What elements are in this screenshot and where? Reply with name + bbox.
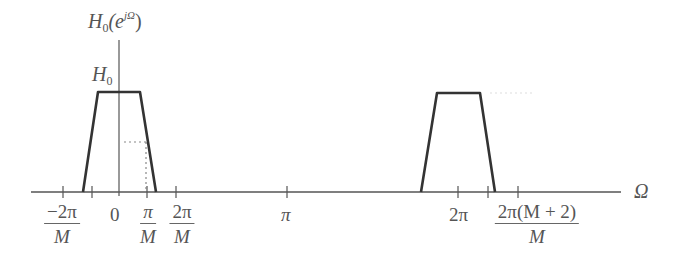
tick-label-pi-over-M: π M bbox=[140, 202, 156, 246]
frac-numerator: π bbox=[140, 202, 156, 223]
y-label-sup: jΩ bbox=[124, 9, 135, 21]
y-label-base: H bbox=[88, 10, 102, 32]
frac-denominator: M bbox=[174, 224, 190, 246]
tick-label-2pi-M-plus-2-over-M: 2π(M + 2) M bbox=[495, 202, 579, 246]
tick-label-pi: π bbox=[281, 205, 291, 224]
frac-denominator: M bbox=[54, 224, 70, 246]
y-label-open: (e bbox=[108, 10, 124, 32]
y-axis-label: H0(ejΩ) bbox=[88, 10, 142, 34]
frac-numerator: 2π bbox=[169, 202, 194, 223]
passband-image-2pi bbox=[421, 93, 495, 192]
tick-label-2pi-over-M: 2π M bbox=[169, 202, 194, 246]
frac-numerator: −2π bbox=[44, 202, 80, 223]
frac-denominator: M bbox=[529, 224, 545, 246]
x-axis-label: Ω bbox=[634, 181, 648, 201]
y-label-close: ) bbox=[135, 10, 142, 32]
frac-denominator: M bbox=[140, 224, 156, 246]
dotted-guides bbox=[124, 93, 532, 190]
tick-label-2pi: 2π bbox=[449, 205, 468, 224]
tick-label-zero: 0 bbox=[110, 205, 120, 224]
level-label-sub: 0 bbox=[106, 74, 112, 88]
tick-label-neg-2pi-over-M: −2π M bbox=[44, 202, 80, 246]
level-label-base: H bbox=[92, 63, 106, 85]
level-label: H0 bbox=[92, 64, 112, 87]
frequency-response-diagram: H0(ejΩ) H0 Ω −2π M 0 π M 2π M π 2π 2π(M … bbox=[0, 0, 681, 266]
frac-numerator: 2π(M + 2) bbox=[495, 202, 579, 223]
